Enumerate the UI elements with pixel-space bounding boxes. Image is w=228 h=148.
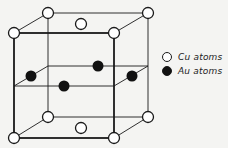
au-atom: [93, 61, 104, 72]
legend-item-au: Au atoms: [162, 64, 222, 78]
legend-item-cu: Cu atoms: [162, 50, 222, 64]
cu-atom: [43, 112, 54, 123]
cu-atom: [143, 112, 154, 123]
au-atom: [59, 81, 70, 92]
cu-atom: [76, 19, 87, 30]
cu-atom: [9, 28, 20, 39]
cu-atom: [109, 28, 120, 39]
cu-atom: [76, 123, 87, 134]
filled-circle-icon: [162, 66, 172, 76]
cu-atom: [43, 8, 54, 19]
au-atom: [127, 71, 138, 82]
au-atom: [26, 71, 37, 82]
cu-atom: [109, 133, 120, 144]
open-circle-icon: [162, 52, 172, 62]
cu-atom: [9, 133, 20, 144]
legend-label: Au atoms: [178, 66, 222, 76]
legend: Cu atoms Au atoms: [162, 50, 222, 78]
legend-label: Cu atoms: [178, 52, 222, 62]
cu-atom: [143, 8, 154, 19]
